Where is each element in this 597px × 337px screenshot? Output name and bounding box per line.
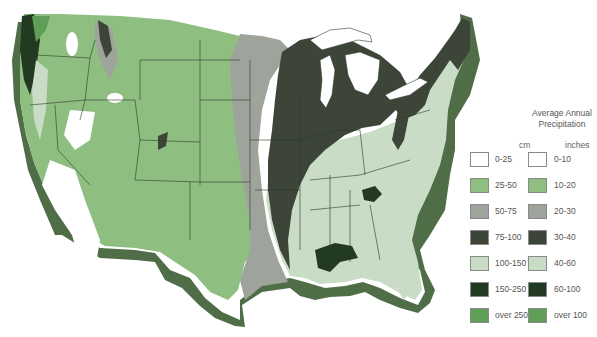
inches-header: inches	[565, 140, 590, 150]
region-oregon-white	[66, 32, 78, 56]
precipitation-map	[0, 0, 597, 337]
region-idaho-white	[107, 93, 123, 103]
legend: Average Annual Precipitation cm inches 0…	[455, 108, 597, 158]
legend-title: Average Annual Precipitation	[527, 108, 597, 130]
cm-header: cm	[519, 140, 530, 150]
legend-title-line1: Average Annual	[527, 108, 597, 119]
legend-title-line2: Precipitation	[527, 119, 597, 130]
